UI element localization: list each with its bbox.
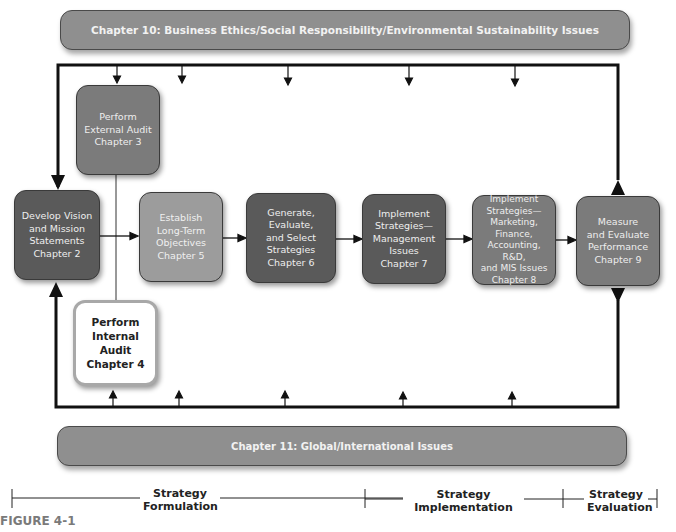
banner-chapter-11-label: Chapter 11: Global/International Issues: [231, 441, 453, 452]
box-generate-strategies-label: Generate, Evaluate, and Select Strategie…: [266, 207, 316, 270]
box-implement-marketing: Implement Strategies— Marketing, Finance…: [472, 195, 556, 285]
box-measure-evaluate-label: Measure and Evaluate Performance Chapter…: [587, 216, 649, 266]
box-long-term-objectives-label: Establish Long-Term Objectives Chapter 5: [156, 212, 206, 262]
box-external-audit: Perform External Audit Chapter 3: [76, 85, 160, 175]
phase-formulation: Strategy Formulation: [140, 487, 220, 513]
box-internal-audit-label: Perform Internal Audit Chapter 4: [78, 315, 153, 371]
phase-implementation: Strategy Implementation: [403, 488, 524, 514]
box-measure-evaluate: Measure and Evaluate Performance Chapter…: [576, 196, 660, 286]
box-external-audit-label: Perform External Audit Chapter 3: [84, 111, 151, 149]
box-develop-vision-label: Develop Vision and Mission Statements Ch…: [22, 210, 92, 260]
box-generate-strategies: Generate, Evaluate, and Select Strategie…: [246, 193, 336, 283]
banner-chapter-11: Chapter 11: Global/International Issues: [57, 426, 627, 466]
box-long-term-objectives: Establish Long-Term Objectives Chapter 5: [139, 192, 223, 282]
box-implement-management-label: Implement Strategies— Management Issues …: [373, 208, 436, 271]
box-implement-management: Implement Strategies— Management Issues …: [362, 194, 446, 284]
box-internal-audit: Perform Internal Audit Chapter 4: [73, 300, 158, 386]
box-implement-marketing-label: Implement Strategies— Marketing, Finance…: [475, 194, 553, 286]
phase-evaluation: Strategy Evaluation: [584, 488, 648, 514]
figure-label: FIGURE 4-1: [0, 514, 76, 528]
box-develop-vision: Develop Vision and Mission Statements Ch…: [14, 190, 100, 280]
